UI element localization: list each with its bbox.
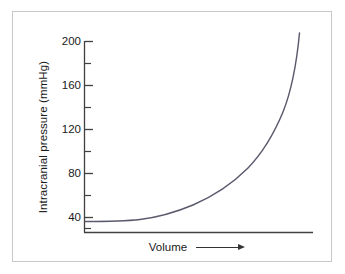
x-axis-title-row: Volume [84, 238, 313, 256]
y-tick-label-200: 200 [51, 35, 81, 47]
y-axis-title: Intracranial pressure (mmHg) [37, 37, 53, 237]
arrow-shaft [196, 247, 240, 248]
plot-area: 200 160 120 80 40 Intracranial pressure … [0, 0, 345, 274]
y-tick-label-160: 160 [51, 79, 81, 91]
y-tick-label-80: 80 [51, 167, 81, 179]
y-axis-minor-ticks [85, 64, 92, 229]
x-axis-title: Volume [149, 241, 187, 253]
right-arrow-icon [196, 242, 248, 252]
y-tick-label-40: 40 [51, 211, 81, 223]
arrow-head [238, 244, 245, 250]
figure-container: 200 160 120 80 40 Intracranial pressure … [0, 0, 345, 274]
y-axis-major-ticks [85, 42, 94, 218]
pressure-volume-curve [85, 33, 300, 222]
y-tick-label-120: 120 [51, 123, 81, 135]
